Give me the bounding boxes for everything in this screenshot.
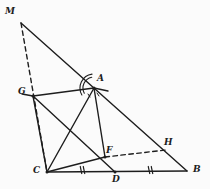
point-label-h: H bbox=[164, 138, 173, 147]
point-label-m: M bbox=[5, 7, 15, 16]
point-label-a: A bbox=[97, 74, 104, 83]
vertex-dot-c bbox=[46, 171, 49, 174]
geometry-canvas bbox=[0, 0, 210, 189]
segment-C-F bbox=[47, 157, 105, 172]
segment-F-H bbox=[105, 150, 166, 157]
vertex-dot-g bbox=[32, 95, 35, 98]
segment-lines bbox=[21, 23, 187, 172]
tick-DB-1 bbox=[148, 166, 149, 173]
segment-C-B bbox=[47, 171, 187, 172]
angle-tick-right-of-A bbox=[97, 93, 99, 96]
point-label-d: D bbox=[112, 175, 120, 184]
tick-CD-2 bbox=[83, 166, 84, 173]
segment-G-A bbox=[33, 88, 94, 96]
segment-A-F bbox=[94, 88, 105, 157]
vertex-dot-a bbox=[93, 87, 96, 90]
congruence-tick-marks bbox=[80, 166, 152, 173]
geometry-figure: MAGCDBFH bbox=[0, 0, 210, 189]
point-label-b: B bbox=[193, 165, 201, 174]
tick-DB-2 bbox=[151, 166, 152, 173]
vertex-dot-f bbox=[104, 156, 107, 159]
tick-CD-1 bbox=[80, 166, 81, 173]
point-label-f: F bbox=[106, 146, 112, 155]
point-label-g: G bbox=[18, 87, 26, 96]
point-label-c: C bbox=[33, 166, 40, 175]
